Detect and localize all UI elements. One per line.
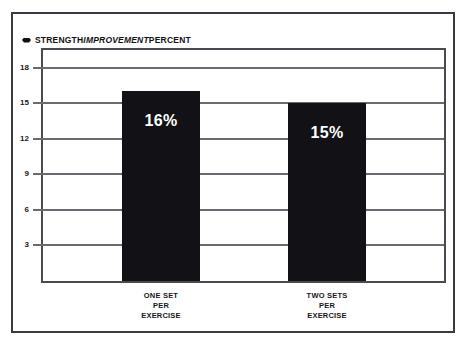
gridline: [43, 173, 444, 175]
gridline: [43, 209, 444, 211]
y-axis-tick-label: 6: [25, 206, 29, 214]
y-axis-tick-label: 12: [20, 135, 29, 143]
chart-title-part3: PERCENT: [149, 36, 191, 45]
plot-area: 18151296316%15%: [41, 48, 446, 283]
chart-title: STRENGTH IMPROVEMENT PERCENT: [22, 34, 191, 46]
y-axis-tick-label: 18: [20, 64, 29, 72]
plot-inner: 18151296316%15%: [43, 50, 444, 281]
chart-figure: STRENGTH IMPROVEMENT PERCENT 18151296316…: [0, 0, 464, 345]
gridline: [43, 67, 444, 69]
y-axis-tick: [33, 102, 43, 104]
gridline: [43, 138, 444, 140]
bar-value-label: 16%: [122, 113, 200, 129]
y-axis-tick: [33, 209, 43, 211]
bar: 15%: [288, 103, 366, 281]
chart-title-part1: STRENGTH: [35, 36, 83, 45]
gridline: [43, 244, 444, 246]
y-axis-tick: [33, 244, 43, 246]
y-axis-tick: [33, 67, 43, 69]
y-axis-tick-label: 15: [20, 99, 29, 107]
chart-title-part2: IMPROVEMENT: [83, 36, 148, 45]
bar-value-label: 15%: [288, 125, 366, 141]
y-axis-tick: [33, 138, 43, 140]
diamond-bullet-icon: [22, 38, 31, 43]
x-axis-category-label: TWO SETS PER EXERCISE: [257, 291, 397, 321]
y-axis-tick: [33, 173, 43, 175]
gridline: [43, 102, 444, 104]
x-axis-category-label: ONE SET PER EXERCISE: [91, 291, 231, 321]
y-axis-tick-label: 3: [25, 241, 29, 249]
y-axis-tick-label: 9: [25, 170, 29, 178]
bar: 16%: [122, 91, 200, 281]
